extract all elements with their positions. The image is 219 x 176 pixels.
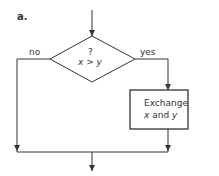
yes-label: yes xyxy=(140,48,156,57)
process-line1: Exchange xyxy=(144,97,188,109)
flowchart xyxy=(0,0,219,176)
yes-branch-line xyxy=(135,59,168,90)
panel-label: a. xyxy=(17,12,28,22)
no-branch-line xyxy=(17,59,50,152)
decision-condition: x > y xyxy=(78,58,102,67)
no-label: no xyxy=(29,48,40,57)
process-text: Exchange x and y xyxy=(144,97,188,121)
decision-question-mark: ? xyxy=(88,48,93,57)
process-line2: x and y xyxy=(144,109,188,121)
